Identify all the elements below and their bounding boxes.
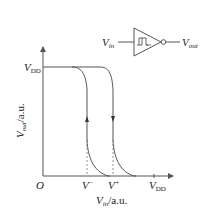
curve-rising-threshold <box>72 67 136 176</box>
inverter-triangle <box>134 28 161 56</box>
x-tick-vdd: VDD <box>149 179 166 193</box>
x-tick-v-minus: V− <box>82 179 94 191</box>
arrow-down-icon <box>111 116 115 122</box>
x-axis-label: Vin/a.u. <box>96 194 127 208</box>
hysteresis-diagram: Vin Vout VDD Vout/a.u. O V− V+ VDD Vin/a… <box>0 0 206 217</box>
svg-text:Vout/a.u.: Vout/a.u. <box>14 103 28 138</box>
arrow-up-icon <box>85 116 89 122</box>
inversion-bubble <box>161 40 166 45</box>
transfer-curves <box>43 67 136 176</box>
x-tick-v-plus: V+ <box>108 179 120 191</box>
schmitt-inverter-symbol: Vin Vout <box>102 28 199 56</box>
input-label: Vin <box>102 36 115 50</box>
y-axis-label: Vout/a.u. <box>14 103 28 138</box>
curve-falling-threshold <box>43 67 110 176</box>
output-label: Vout <box>182 36 199 50</box>
origin-label: O <box>36 179 44 191</box>
y-tick-vdd: VDD <box>24 61 41 75</box>
hysteresis-icon <box>137 38 151 45</box>
